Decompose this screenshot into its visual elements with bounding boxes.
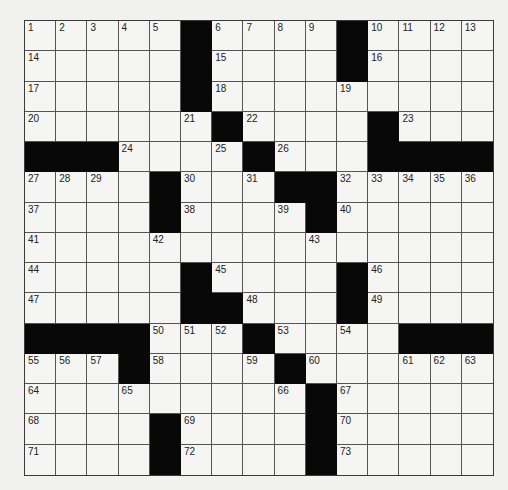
grid-cell[interactable]: 47 [25,293,56,323]
grid-cell[interactable] [306,142,337,172]
grid-cell[interactable]: 35 [431,172,462,202]
grid-cell[interactable] [87,414,118,444]
grid-cell[interactable] [399,384,430,414]
grid-cell[interactable]: 46 [368,263,399,293]
grid-cell[interactable] [243,51,274,81]
grid-cell[interactable] [368,82,399,112]
grid-cell[interactable]: 20 [25,112,56,142]
grid-cell[interactable]: 7 [243,21,274,51]
grid-cell[interactable]: 8 [275,21,306,51]
grid-cell[interactable] [56,293,87,323]
grid-cell[interactable] [87,203,118,233]
grid-cell[interactable] [56,82,87,112]
grid-cell[interactable]: 23 [399,112,430,142]
grid-cell[interactable] [399,51,430,81]
grid-cell[interactable] [56,203,87,233]
grid-cell[interactable]: 26 [275,142,306,172]
grid-cell[interactable] [212,354,243,384]
grid-cell[interactable] [337,354,368,384]
grid-cell[interactable]: 10 [368,21,399,51]
grid-cell[interactable] [462,414,493,444]
grid-cell[interactable]: 48 [243,293,274,323]
grid-cell[interactable]: 65 [119,384,150,414]
grid-cell[interactable] [306,324,337,354]
grid-cell[interactable] [119,203,150,233]
grid-cell[interactable] [275,51,306,81]
grid-cell[interactable] [368,414,399,444]
grid-cell[interactable] [181,384,212,414]
grid-cell[interactable]: 37 [25,203,56,233]
grid-cell[interactable]: 50 [150,324,181,354]
grid-cell[interactable]: 72 [181,445,212,475]
grid-cell[interactable] [119,112,150,142]
grid-cell[interactable] [431,203,462,233]
grid-cell[interactable]: 2 [56,21,87,51]
grid-cell[interactable]: 11 [399,21,430,51]
grid-cell[interactable]: 55 [25,354,56,384]
grid-cell[interactable] [119,293,150,323]
grid-cell[interactable] [368,445,399,475]
grid-cell[interactable]: 21 [181,112,212,142]
grid-cell[interactable] [431,263,462,293]
grid-cell[interactable] [306,82,337,112]
grid-cell[interactable] [119,445,150,475]
grid-cell[interactable] [56,384,87,414]
grid-cell[interactable]: 44 [25,263,56,293]
grid-cell[interactable]: 14 [25,51,56,81]
grid-cell[interactable] [150,82,181,112]
grid-cell[interactable] [87,263,118,293]
grid-cell[interactable]: 18 [212,82,243,112]
grid-cell[interactable]: 25 [212,142,243,172]
grid-cell[interactable] [462,445,493,475]
grid-cell[interactable] [119,233,150,263]
grid-cell[interactable]: 4 [119,21,150,51]
grid-cell[interactable] [462,233,493,263]
grid-cell[interactable] [431,414,462,444]
grid-cell[interactable] [150,263,181,293]
grid-cell[interactable] [56,112,87,142]
grid-cell[interactable]: 6 [212,21,243,51]
grid-cell[interactable]: 13 [462,21,493,51]
grid-cell[interactable] [243,445,274,475]
grid-cell[interactable]: 1 [25,21,56,51]
grid-cell[interactable]: 69 [181,414,212,444]
grid-cell[interactable]: 24 [119,142,150,172]
grid-cell[interactable] [275,293,306,323]
grid-cell[interactable] [243,384,274,414]
grid-cell[interactable]: 32 [337,172,368,202]
grid-cell[interactable] [462,293,493,323]
grid-cell[interactable] [399,203,430,233]
grid-cell[interactable] [56,263,87,293]
grid-cell[interactable] [275,112,306,142]
grid-cell[interactable] [368,384,399,414]
grid-cell[interactable] [462,51,493,81]
grid-cell[interactable] [462,263,493,293]
grid-cell[interactable]: 34 [399,172,430,202]
grid-cell[interactable] [56,233,87,263]
grid-cell[interactable]: 63 [462,354,493,384]
grid-cell[interactable] [306,51,337,81]
grid-cell[interactable]: 66 [275,384,306,414]
grid-cell[interactable] [431,82,462,112]
grid-cell[interactable] [181,142,212,172]
grid-cell[interactable] [275,445,306,475]
grid-cell[interactable]: 64 [25,384,56,414]
grid-cell[interactable]: 52 [212,324,243,354]
grid-cell[interactable] [337,233,368,263]
grid-cell[interactable] [275,233,306,263]
grid-cell[interactable] [368,324,399,354]
grid-cell[interactable]: 28 [56,172,87,202]
grid-cell[interactable] [119,263,150,293]
grid-cell[interactable] [181,354,212,384]
grid-cell[interactable] [87,445,118,475]
grid-cell[interactable] [87,293,118,323]
grid-cell[interactable] [337,142,368,172]
grid-cell[interactable]: 39 [275,203,306,233]
grid-cell[interactable] [462,112,493,142]
grid-cell[interactable]: 12 [431,21,462,51]
grid-cell[interactable] [56,414,87,444]
grid-cell[interactable]: 61 [399,354,430,384]
grid-cell[interactable] [399,263,430,293]
grid-cell[interactable] [56,51,87,81]
grid-cell[interactable]: 17 [25,82,56,112]
